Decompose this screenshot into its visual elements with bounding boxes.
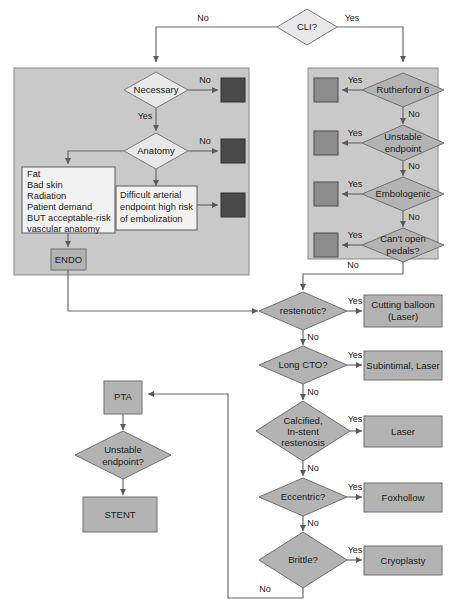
decision-unstable-endpoint-line-1: Unstable	[384, 131, 422, 142]
note-criteria-line-2: Bad skin	[27, 180, 63, 190]
result-cutting-balloon-line-1: Cutting balloon	[371, 299, 434, 310]
note-criteria-line-6: vascular anatomy	[27, 224, 100, 234]
edge-label-long-cto-yes: Yes	[348, 350, 363, 360]
edge-label-brittle-no: No	[259, 584, 271, 594]
result-cutting-balloon-line-2: (Laser)	[388, 311, 418, 322]
result-cryoplasty-label: Cryoplasty	[381, 555, 426, 566]
edge-label-unstable-endpoint-yes: Yes	[348, 128, 363, 138]
note-criteria-line-4: Patient demand	[27, 202, 92, 212]
result-foxhollow-label: Foxhollow	[382, 492, 425, 503]
flowchart-page: CLI? No Yes Necessary No Yes Anatomy No …	[0, 0, 452, 612]
decision-anatomy-label: Anatomy	[137, 145, 175, 156]
decision-calcified-line-2: In-stent	[287, 426, 319, 437]
edge-label-rutherford6-no: No	[408, 109, 420, 119]
decision-calcified-line-3: restenosis	[281, 437, 325, 448]
process-pta-label: PTA	[114, 391, 132, 402]
edge-cli-yes	[337, 27, 403, 62]
edge-label-restenotic-yes: Yes	[348, 296, 363, 306]
decision-cant-open-pedals-line-2: pedals?	[386, 245, 419, 256]
edge-label-brittle-yes: Yes	[348, 545, 363, 555]
decision-cant-open-pedals-line-1: Can't open	[380, 233, 426, 244]
note-criteria-line-1: Fat	[27, 169, 41, 179]
decision-restenotic-label: restenotic?	[280, 305, 326, 316]
decision-unstable-endpoint-line-2: endpoint	[385, 143, 422, 154]
edge-label-cli-no: No	[197, 13, 209, 23]
outcome-dark-1[interactable]	[221, 78, 245, 102]
decision-brittle-label: Brittle?	[288, 554, 318, 565]
note-criteria-line-3: Radiation	[27, 191, 66, 201]
edge-label-calcified-no: No	[307, 463, 319, 473]
outcome-mid-1[interactable]	[314, 78, 338, 102]
flowchart-canvas: CLI? No Yes Necessary No Yes Anatomy No …	[0, 0, 452, 612]
edge-label-calcified-yes: Yes	[348, 414, 363, 424]
edge-label-cant-open-pedals-yes: Yes	[348, 230, 363, 240]
result-laser-label: Laser	[391, 426, 415, 437]
edge-label-cant-open-pedals-no: No	[347, 260, 359, 270]
outcome-mid-3[interactable]	[314, 182, 338, 206]
result-subintimal-laser-label: Subintimal, Laser	[366, 360, 439, 371]
decision-cli-label: CLI?	[297, 21, 317, 32]
process-endo-label: ENDO	[55, 254, 82, 265]
decision-calcified-line-1: Calcified,	[283, 415, 322, 426]
decision-unstable-endpoint-2-line-2: endpoint?	[102, 456, 144, 467]
edge-label-eccentric-no: No	[307, 518, 319, 528]
edge-label-anatomy-no: No	[199, 136, 211, 146]
outcome-mid-2[interactable]	[314, 131, 338, 155]
decision-unstable-endpoint-2-line-1: Unstable	[104, 444, 142, 455]
note-difficult-line-1: Difficult arterial	[120, 190, 181, 200]
edge-cli-no	[156, 27, 277, 62]
note-difficult-line-2: endpoint high risk	[120, 202, 193, 212]
edge-label-embologenic-no: No	[408, 212, 420, 222]
decision-rutherford6-label: Rutherford 6	[377, 84, 430, 95]
edge-label-restenotic-no: No	[307, 332, 319, 342]
decision-eccentric-label: Eccentric?	[281, 491, 325, 502]
edge-label-necessary-no: No	[199, 75, 211, 85]
outcome-mid-4[interactable]	[314, 233, 338, 257]
decision-long-cto-label: Long CTO?	[279, 359, 328, 370]
edge-label-cli-yes: Yes	[345, 13, 360, 23]
outcome-dark-2[interactable]	[221, 139, 245, 163]
decision-necessary-label: Necessary	[134, 84, 179, 95]
outcome-dark-3[interactable]	[221, 193, 245, 217]
edge-label-long-cto-no: No	[307, 387, 319, 397]
edge-label-rutherford6-yes: Yes	[348, 75, 363, 85]
process-stent-label: STENT	[104, 509, 135, 520]
note-criteria-line-5: BUT acceptable-risk	[27, 213, 111, 223]
edge-endo-to-restenotic	[68, 270, 258, 311]
note-difficult-line-3: of embolization	[120, 214, 183, 224]
edge-label-necessary-yes: Yes	[138, 111, 153, 121]
decision-embologenic-label: Embologenic	[376, 188, 431, 199]
edge-label-unstable-endpoint-no: No	[408, 161, 420, 171]
edge-label-embologenic-yes: Yes	[348, 179, 363, 189]
edge-label-eccentric-yes: Yes	[348, 482, 363, 492]
